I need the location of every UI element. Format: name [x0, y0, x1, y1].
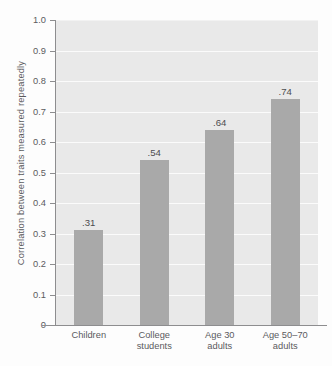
- y-axis-tick: [50, 142, 56, 143]
- y-axis-tick-label: 0.1: [20, 290, 46, 300]
- y-axis-tick: [50, 325, 56, 326]
- x-axis-tick-label-line: Age 50–70: [247, 330, 323, 341]
- y-axis-tick: [50, 264, 56, 265]
- y-axis-tick: [50, 112, 56, 113]
- y-axis-tick: [50, 234, 56, 235]
- x-axis-tick-label: Age 50–70adults: [247, 330, 323, 353]
- bar-value-label: .74: [265, 86, 305, 97]
- plot-area: [56, 20, 318, 325]
- y-axis-tick: [50, 20, 56, 21]
- bar[interactable]: [205, 130, 234, 325]
- y-axis-tick: [50, 51, 56, 52]
- y-axis-tick-label: 0.2: [20, 259, 46, 269]
- y-axis-tick: [50, 173, 56, 174]
- x-axis-tick-label-line: adults: [247, 341, 323, 352]
- y-axis-tick-labels: 1.00.90.80.70.60.50.40.30.20.10: [14, 0, 46, 366]
- y-axis-tick: [50, 295, 56, 296]
- y-axis-tick-label: 0.9: [20, 46, 46, 56]
- bar[interactable]: [271, 99, 300, 325]
- bar-value-label: .54: [134, 147, 174, 158]
- y-axis-tick-label: 0.8: [20, 76, 46, 86]
- bar[interactable]: [74, 230, 103, 325]
- x-axis-line: [42, 325, 327, 326]
- bar-chart-figure: Correlation between traits measured repe…: [0, 0, 332, 366]
- gridline: [56, 51, 318, 52]
- y-axis-tick-label: 0.7: [20, 107, 46, 117]
- y-axis-tick-label: 0.5: [20, 168, 46, 178]
- gridline: [56, 81, 318, 82]
- y-axis-tick: [50, 81, 56, 82]
- y-axis-tick-label: 0.3: [20, 229, 46, 239]
- bar-value-label: .64: [200, 117, 240, 128]
- gridline: [56, 20, 318, 21]
- y-axis-tick-label: 0.4: [20, 198, 46, 208]
- y-axis-tick-label: 1.0: [20, 15, 46, 25]
- y-axis-tick: [50, 203, 56, 204]
- bar-value-label: .31: [69, 217, 109, 228]
- y-axis-tick-label: 0.6: [20, 137, 46, 147]
- bar[interactable]: [140, 160, 169, 325]
